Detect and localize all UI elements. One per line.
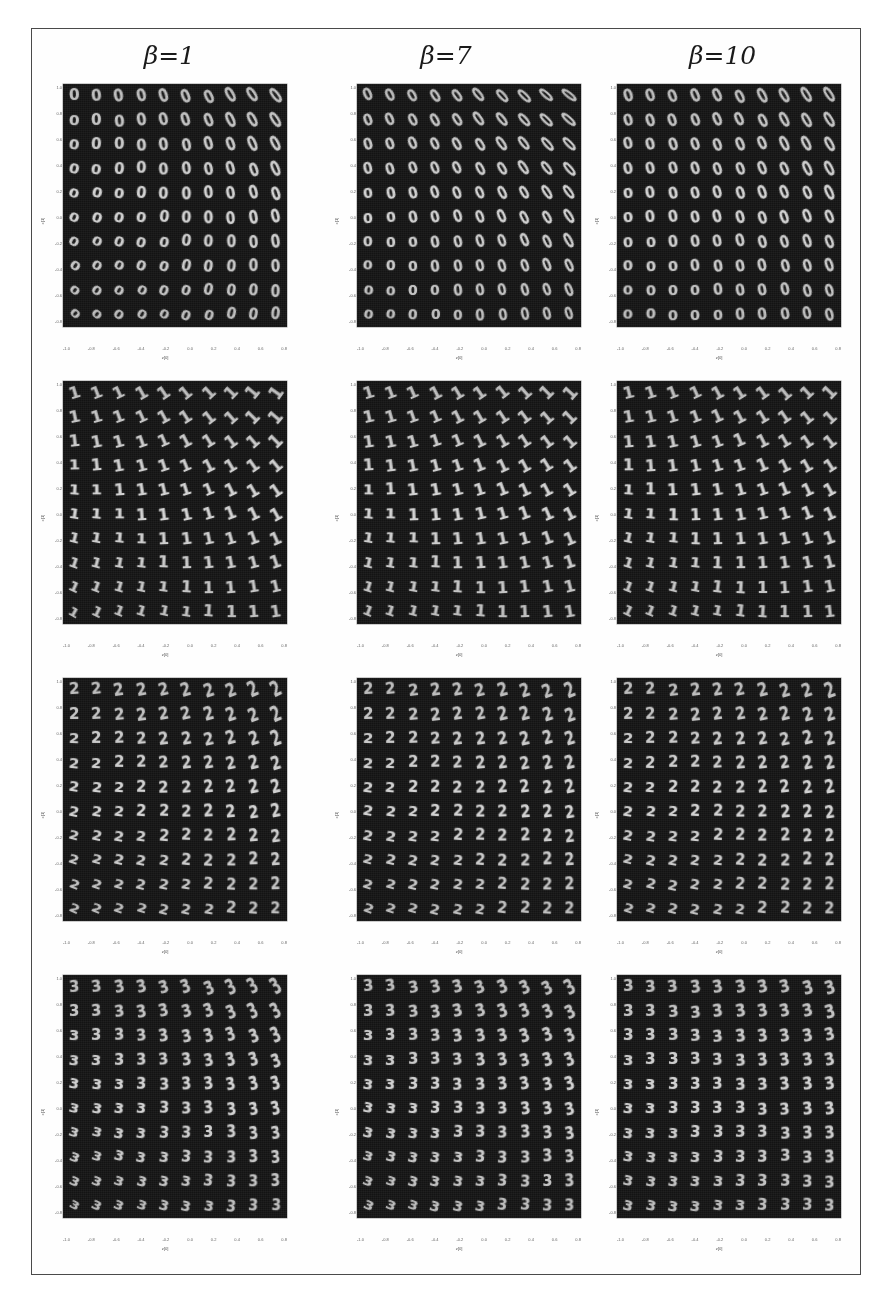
decoded-digit-glyph: 3 [668, 1052, 679, 1068]
mosaic-cell: 0 [265, 205, 287, 229]
decoded-digit-glyph: 3 [246, 1025, 262, 1047]
mosaic-cell: 0 [819, 303, 841, 327]
decoded-digit-glyph: 1 [755, 505, 770, 523]
mosaic-cell: 3 [85, 999, 107, 1023]
mosaic-cell: 3 [447, 975, 469, 999]
decoded-digit-glyph: 2 [202, 753, 215, 772]
decoded-digit-glyph: 0 [800, 256, 814, 276]
mosaic-cell: 3 [751, 1048, 773, 1072]
mosaic-cell: 2 [751, 702, 773, 726]
mosaic-cell: 1 [751, 600, 773, 624]
decoded-digit-glyph: 1 [667, 507, 679, 522]
y-tick-label: -0.4 [341, 1159, 356, 1163]
decoded-digit-glyph: 2 [518, 704, 533, 725]
decoded-digit-glyph: 2 [223, 679, 239, 701]
y-tick-label: 0.6 [601, 732, 616, 736]
mosaic-cell: 2 [379, 751, 401, 775]
y-tick-label: -0.2 [601, 836, 616, 840]
decoded-digit-glyph: 2 [157, 705, 170, 724]
decoded-digit-glyph: 3 [779, 1051, 792, 1070]
mosaic-cell: 3 [796, 1096, 818, 1120]
decoded-digit-glyph: 3 [778, 1002, 792, 1022]
mosaic-cell: 1 [242, 405, 264, 429]
mosaic-cell: 1 [662, 430, 684, 454]
decoded-digit-glyph: 0 [776, 134, 793, 156]
decoded-digit-glyph: 3 [757, 1149, 768, 1165]
decoded-digit-glyph: 0 [689, 184, 703, 203]
decoded-digit-glyph: 3 [91, 978, 103, 995]
mosaic-cell: 1 [639, 478, 661, 502]
mosaic-cell: 3 [491, 1145, 513, 1169]
decoded-digit-glyph: 0 [113, 112, 125, 129]
decoded-digit-glyph: 1 [776, 456, 794, 476]
decoded-digit-glyph: 2 [539, 679, 555, 701]
y-tick-label: 0.4 [601, 164, 616, 168]
y-axis-ticks: 1.00.80.60.40.20.0-0.2-0.4-0.6-0.8 [601, 86, 616, 324]
decoded-digit-glyph: 2 [644, 901, 657, 916]
mosaic-cell: 1 [85, 381, 107, 405]
decoded-digit-glyph: 0 [667, 234, 679, 250]
mosaic-cell: 0 [153, 205, 175, 229]
decoded-digit-glyph: 1 [711, 579, 724, 595]
y-tick-label: 0.4 [601, 758, 616, 762]
decoded-digit-glyph: 3 [712, 1052, 723, 1069]
decoded-digit-glyph: 0 [667, 283, 678, 298]
decoded-digit-glyph: 3 [734, 1027, 746, 1045]
x-tick-label: -1.0 [617, 346, 624, 351]
decoded-digit-glyph: 0 [538, 182, 556, 204]
mosaic-cell: 1 [751, 478, 773, 502]
mosaic-cell: 2 [175, 848, 197, 872]
x-tick-label: -0.2 [456, 346, 463, 351]
decoded-digit-glyph: 1 [111, 408, 127, 427]
mosaic-cell: 3 [357, 1048, 379, 1072]
mosaic-cell: 0 [819, 108, 841, 132]
y-axis-label: z[1] [334, 218, 339, 225]
decoded-digit-glyph: 1 [665, 383, 682, 402]
mosaic-cell: 2 [469, 799, 491, 823]
decoded-digit-glyph: 1 [493, 407, 512, 428]
mosaic-cell: 0 [662, 84, 684, 108]
decoded-digit-glyph: 1 [559, 382, 581, 403]
mosaic-cell: 2 [639, 897, 661, 921]
mosaic-cell: 0 [379, 84, 401, 108]
mosaic-cell: 2 [357, 848, 379, 872]
decoded-digit-glyph: 3 [780, 1173, 791, 1189]
decoded-digit-glyph: 2 [362, 755, 374, 770]
mosaic-cell: 1 [130, 478, 152, 502]
mosaic-cell: 2 [379, 799, 401, 823]
decoded-digit-glyph: 3 [247, 1074, 260, 1095]
decoded-image-mosaic: 1111111111111111111111111111111111111111… [63, 381, 287, 624]
y-tick-label: 0.4 [47, 758, 62, 762]
decoded-digit-glyph: 1 [156, 457, 172, 476]
decoded-digit-glyph: 1 [362, 458, 374, 474]
mosaic-cell: 1 [707, 502, 729, 526]
decoded-digit-glyph: 3 [564, 1173, 575, 1190]
mosaic-cell: 1 [63, 527, 85, 551]
decoded-digit-glyph: 3 [248, 1148, 258, 1166]
decoded-digit-glyph: 2 [269, 777, 283, 798]
mosaic-cell: 1 [424, 381, 446, 405]
mosaic-cell: 3 [108, 1145, 130, 1169]
decoded-digit-glyph: 2 [622, 853, 635, 868]
y-tick-label: 1.0 [341, 977, 356, 981]
mosaic-cell: 1 [774, 551, 796, 575]
mosaic-cell: 2 [130, 727, 152, 751]
mosaic-cell: 0 [514, 230, 536, 254]
mosaic-cell: 3 [265, 1024, 287, 1048]
mosaic-cell: 2 [265, 872, 287, 896]
mosaic-cell: 0 [536, 254, 558, 278]
mosaic-cell: 2 [265, 702, 287, 726]
mosaic-cell: 2 [751, 848, 773, 872]
decoded-digit-glyph: 0 [536, 110, 558, 132]
mosaic-cell: 1 [265, 551, 287, 575]
y-axis-label: z[1] [594, 812, 599, 819]
mosaic-cell: 3 [447, 1024, 469, 1048]
mosaic-cell: 0 [514, 133, 536, 157]
decoded-digit-glyph: 2 [644, 877, 657, 892]
mosaic-cell: 2 [639, 824, 661, 848]
y-tick-label: 0.0 [47, 216, 62, 220]
decoded-digit-glyph: 2 [667, 828, 679, 844]
decoded-digit-glyph: 0 [473, 208, 488, 228]
mosaic-cell: 1 [729, 405, 751, 429]
mosaic-cell: 1 [85, 551, 107, 575]
